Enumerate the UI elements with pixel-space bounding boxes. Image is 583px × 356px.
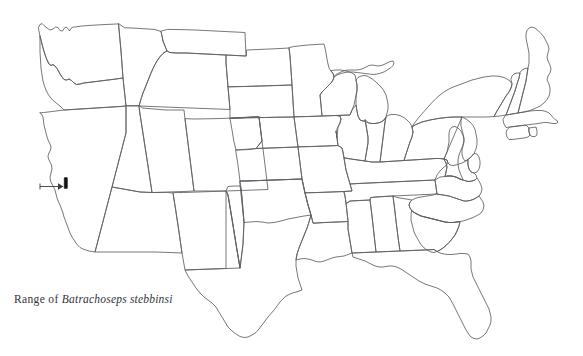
- state-washington: [39, 24, 124, 85]
- state-arizona: [95, 187, 182, 253]
- state-michigan-upper: [334, 61, 394, 77]
- state-colorado: [185, 117, 268, 191]
- state-massachusetts: [503, 111, 558, 128]
- state-west-virginia: [444, 127, 464, 181]
- state-kansas: [236, 147, 302, 181]
- state-maryland: [444, 159, 477, 182]
- state-wisconsin: [320, 70, 357, 116]
- state-nebraska: [230, 117, 298, 150]
- state-minnesota: [289, 44, 334, 117]
- state-mississippi: [346, 200, 376, 253]
- state-oregon: [40, 36, 126, 110]
- caption-species-name: Batrachoseps stebbinsi: [62, 293, 173, 305]
- state-florida: [352, 250, 491, 340]
- caption-lead-in: Range of: [14, 293, 62, 305]
- range-marker: [64, 178, 67, 189]
- state-iowa: [294, 116, 341, 148]
- state-nevada: [112, 106, 152, 193]
- state-illinois: [336, 105, 368, 161]
- state-north-dakota: [226, 48, 292, 87]
- state-connecticut: [506, 125, 530, 140]
- figure-caption: Range of Batrachoseps stebbinsi: [14, 293, 173, 305]
- state-pennsylvania: [404, 117, 462, 161]
- state-montana: [161, 29, 246, 56]
- range-pointer-arrowhead: [58, 183, 64, 189]
- state-wyoming: [139, 51, 230, 110]
- state-outlines: [39, 24, 559, 340]
- state-new-york: [412, 76, 512, 127]
- state-texas: [185, 179, 311, 338]
- state-virginia: [435, 176, 482, 201]
- state-north-carolina: [409, 194, 484, 223]
- state-louisiana: [296, 215, 352, 262]
- state-ohio: [380, 115, 413, 163]
- state-california: [40, 106, 126, 252]
- state-georgia: [393, 196, 460, 252]
- state-oklahoma: [226, 179, 311, 268]
- state-south-carolina: [411, 211, 460, 253]
- state-vermont: [494, 73, 520, 117]
- state-michigan-lower: [356, 76, 388, 124]
- state-kentucky: [344, 158, 448, 184]
- range-map-figure: Range of Batrachoseps stebbinsi: [0, 0, 583, 356]
- state-alabama: [370, 196, 400, 252]
- state-new-mexico: [173, 191, 240, 270]
- state-south-dakota: [228, 85, 294, 119]
- state-missouri: [298, 146, 352, 194]
